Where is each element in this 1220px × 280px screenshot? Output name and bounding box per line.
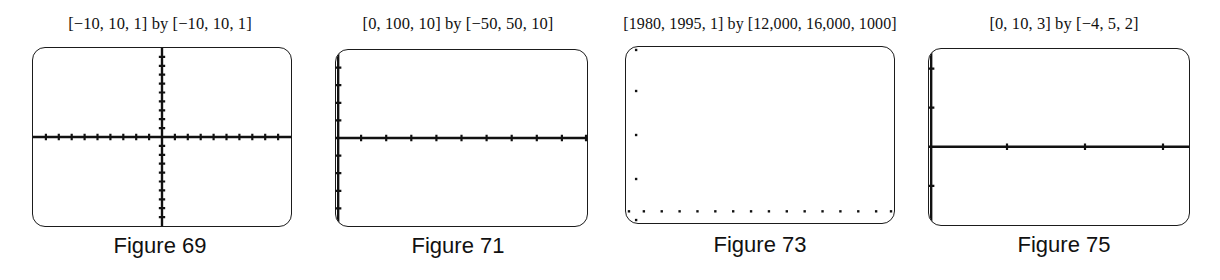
plot-svg-75 bbox=[929, 49, 1189, 225]
plot-svg-69 bbox=[33, 48, 291, 226]
figure-panel-71: [0, 100, 10] by [−50, 50, 10] Figure 71 bbox=[308, 0, 608, 280]
plot-svg-73 bbox=[626, 47, 894, 223]
viewing-window-label: [1980, 1995, 1] by [12,000, 16,000, 1000… bbox=[600, 14, 920, 34]
figure-panel-73: [1980, 1995, 1] by [12,000, 16,000, 1000… bbox=[600, 0, 920, 280]
calculator-screen-75 bbox=[928, 48, 1190, 226]
calculator-screen-69 bbox=[32, 47, 292, 227]
plot-svg-71 bbox=[336, 50, 587, 226]
figure-caption: Figure 69 bbox=[0, 233, 320, 259]
figure-caption: Figure 73 bbox=[600, 232, 920, 258]
plot-area-71 bbox=[336, 50, 587, 226]
plot-area-73 bbox=[626, 47, 894, 223]
viewing-window-label: [0, 100, 10] by [−50, 50, 10] bbox=[308, 14, 608, 34]
figure-caption: Figure 75 bbox=[908, 232, 1220, 258]
viewing-window-label: [−10, 10, 1] by [−10, 10, 1] bbox=[0, 14, 320, 34]
calculator-screen-71 bbox=[335, 49, 588, 227]
figure-panel-75: [0, 10, 3] by [−4, 5, 2] Figure 75 bbox=[908, 0, 1220, 280]
figure-strip: [−10, 10, 1] by [−10, 10, 1] Figure 69 [… bbox=[0, 0, 1220, 280]
plot-area-75 bbox=[929, 49, 1189, 225]
figure-panel-69: [−10, 10, 1] by [−10, 10, 1] Figure 69 bbox=[0, 0, 320, 280]
figure-caption: Figure 71 bbox=[308, 233, 608, 259]
calculator-screen-73 bbox=[625, 46, 895, 224]
viewing-window-label: [0, 10, 3] by [−4, 5, 2] bbox=[908, 14, 1220, 34]
plot-area-69 bbox=[33, 48, 291, 226]
